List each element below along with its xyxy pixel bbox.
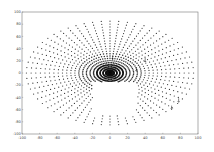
x-tick-label: 100 bbox=[195, 136, 203, 140]
y-tick-label: -20 bbox=[15, 83, 22, 87]
x-tick-label: -100 bbox=[18, 136, 27, 140]
y-tick-label: -40 bbox=[15, 96, 22, 100]
y-tick-label: -60 bbox=[15, 108, 22, 112]
x-tick-label: -80 bbox=[37, 136, 44, 140]
x-tick-label: 60 bbox=[161, 136, 166, 140]
y-tick-label: 20 bbox=[16, 59, 21, 63]
y-tick-label: 80 bbox=[16, 22, 21, 26]
x-tick-label: -40 bbox=[72, 136, 79, 140]
x-tick-label: 40 bbox=[143, 136, 148, 140]
y-tick-label: 100 bbox=[14, 10, 22, 14]
y-tick-label: 0 bbox=[19, 71, 22, 75]
y-axis-ticks: 100806040200-20-40-60-80-100 bbox=[13, 10, 24, 136]
x-tick-label: -60 bbox=[54, 136, 61, 140]
scatter-figure: -100-80-60-40-20020406080100 10080604020… bbox=[0, 0, 214, 152]
y-tick-label: -80 bbox=[15, 120, 22, 124]
x-tick-label: 80 bbox=[178, 136, 183, 140]
x-tick-label: 20 bbox=[125, 136, 130, 140]
y-tick-label: 40 bbox=[16, 47, 21, 51]
y-tick-label: -100 bbox=[13, 132, 22, 136]
x-tick-label: -20 bbox=[89, 136, 96, 140]
y-tick-label: 60 bbox=[16, 35, 21, 39]
x-tick-label: 0 bbox=[109, 136, 112, 140]
